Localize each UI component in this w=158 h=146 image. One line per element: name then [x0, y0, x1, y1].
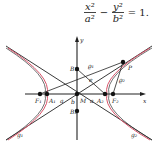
label-a-right: a	[90, 97, 94, 104]
point-a2	[103, 92, 107, 96]
label-e: e	[89, 76, 93, 83]
point-f2	[111, 92, 115, 96]
label-b2: B₂	[69, 108, 77, 115]
point-a1	[45, 92, 49, 96]
label-a2: A₂	[96, 97, 104, 104]
x-axis-arrow-icon	[140, 92, 146, 96]
point-f1	[38, 92, 42, 96]
x-axis-label: x	[143, 97, 147, 104]
label-p: P	[127, 64, 133, 71]
focal-radius-1	[40, 62, 123, 94]
y-axis-arrow-icon	[75, 36, 79, 42]
label-a-left: a	[60, 97, 64, 104]
label-f1: F₁	[34, 97, 42, 104]
label-g2: g₂	[131, 131, 138, 139]
label-g1: g₁	[17, 131, 23, 139]
label-a1: A₁	[48, 97, 56, 104]
label-b1: B₁	[69, 65, 77, 72]
label-m: M	[79, 97, 87, 104]
label-f2: F₂	[111, 97, 119, 104]
label-rho1: ϱ₁	[88, 62, 94, 70]
hyperbola-diagram: y x F₁ A₁ a M a A₂ F₂ B₁ B₂ b P e ϱ₁ ϱ₂ …	[0, 0, 158, 146]
point-p	[121, 60, 125, 64]
label-rho2: ϱ₂	[119, 76, 126, 84]
point-m	[75, 92, 79, 96]
y-axis-label: y	[79, 36, 84, 44]
label-b: b	[71, 98, 75, 105]
